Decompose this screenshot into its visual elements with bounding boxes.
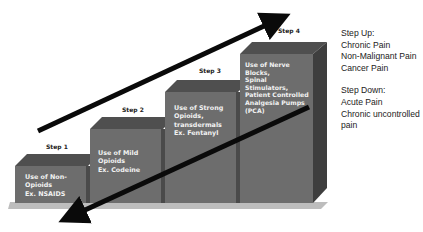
step-3-label: Step 3 [199, 67, 221, 74]
base-platform [8, 202, 328, 209]
step-up-title: Step Up: [341, 28, 420, 40]
step-2-description: Use of Mild Opioids Ex. Codeine [98, 149, 140, 174]
step-3-description: Use of Strong Opioids, transdermals Ex. … [174, 104, 223, 138]
step-down-item: pain [341, 120, 420, 132]
step-2-label: Step 2 [122, 106, 144, 113]
step-4-label: Step 4 [278, 27, 300, 34]
side-notes: Step Up: Chronic Pain Non-Malignant Pain… [341, 28, 420, 132]
step-up-item: Non-Malignant Pain [341, 51, 420, 63]
step-down-item: Acute Pain [341, 97, 420, 109]
step-1-label: Step 1 [46, 143, 68, 150]
step-up-item: Cancer Pain [341, 63, 420, 75]
step-up-item: Chronic Pain [341, 40, 420, 52]
step-4-description: Use of Nerve Blocks, Spinal Stimulators,… [245, 61, 309, 114]
pain-ladder-diagram: Step 1 Step 2 Step 3 Step 4 Use of Non- … [0, 0, 423, 232]
step-down-title: Step Down: [341, 85, 420, 97]
spacer [341, 74, 420, 85]
step-down-item: Chronic uncontrolled [341, 109, 420, 121]
step-1-description: Use of Non- Opioids Ex. NSAIDS [25, 173, 67, 198]
